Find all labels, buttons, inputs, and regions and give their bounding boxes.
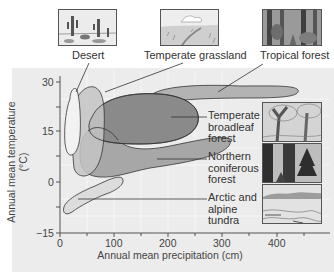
temperate-broadleaf-label: Temperate broadleaf forest xyxy=(208,110,260,145)
x-tick-100: 100 xyxy=(105,237,123,249)
tundra-line-1: Arctic and xyxy=(208,192,257,204)
y-axis-label: Annual mean temperature (°C) xyxy=(5,97,29,227)
coniferous-forest-illustration xyxy=(262,143,322,183)
x-tick-300: 300 xyxy=(213,237,231,249)
grassland-illustration xyxy=(160,9,219,46)
tropical-forest-illustration xyxy=(262,9,322,46)
broadleaf-line-1: Temperate xyxy=(208,110,260,122)
coniferous-line-3: forest xyxy=(208,174,259,186)
desert-label: Desert xyxy=(72,50,104,61)
x-tick-0: 0 xyxy=(57,237,63,249)
y-tick-0: 0 xyxy=(48,176,54,188)
tropical-forest-label: Tropical forest xyxy=(260,50,329,61)
coniferous-line-1: Northern xyxy=(208,151,259,163)
northern-coniferous-label: Northern coniferous forest xyxy=(208,151,259,186)
tundra-line-3: tundra xyxy=(208,215,257,227)
x-tick-200: 200 xyxy=(159,237,177,249)
y-tick-30: 30 xyxy=(42,76,54,88)
temperate-broadleaf-region xyxy=(89,94,198,144)
broadleaf-forest-illustration xyxy=(262,102,322,142)
x-tick-400: 400 xyxy=(268,237,286,249)
y-tick-minus15: −15 xyxy=(36,227,54,239)
temperate-grassland-label: Temperate grassland xyxy=(144,50,247,61)
tundra-illustration xyxy=(262,184,322,224)
broadleaf-line-3: forest xyxy=(208,133,260,145)
desert-illustration xyxy=(58,9,117,46)
arctic-tundra-label: Arctic and alpine tundra xyxy=(208,192,257,227)
x-axis-label: Annual mean precipitation (cm) xyxy=(60,249,280,261)
y-tick-15: 15 xyxy=(42,125,54,137)
desert-region xyxy=(65,88,81,155)
